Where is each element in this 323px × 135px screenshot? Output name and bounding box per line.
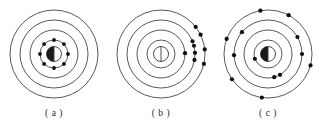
electron-dot [194, 25, 198, 29]
atom-svg-b [107, 0, 215, 108]
electron-dot [193, 51, 197, 55]
electron-dot [300, 52, 304, 56]
atom-svg-c [214, 0, 322, 108]
atom-svg-a [0, 0, 108, 108]
figure-canvas: ( a ) ( b ) ( c ) [0, 0, 323, 135]
electron-dot [295, 35, 299, 39]
electron-dot [230, 77, 234, 81]
atom-diagram-c [214, 0, 322, 108]
panel-b-caption: ( b ) [107, 106, 215, 120]
electron-dot [253, 57, 257, 61]
electron-dot [287, 13, 291, 17]
electron-dot [42, 42, 46, 46]
electron-dot [308, 63, 312, 67]
electron-dot [198, 33, 202, 37]
panel-a-caption: ( a ) [0, 106, 108, 120]
electron-dot [66, 52, 70, 56]
electron-dot [192, 44, 196, 48]
electron-dot [225, 37, 229, 41]
panel-b: ( b ) [107, 0, 215, 135]
electron-dot [62, 42, 66, 46]
electron-dot [183, 51, 187, 55]
nucleus-shaded-half [261, 47, 269, 62]
electron-dot [190, 39, 194, 43]
electron-dot [278, 73, 282, 77]
electron-dot [260, 95, 264, 99]
panel-a: ( a ) [0, 0, 108, 135]
nucleus-shaded-half [47, 47, 54, 62]
electron-dot [192, 58, 196, 62]
electron-dot [232, 53, 236, 57]
electron-dot [52, 66, 56, 70]
panel-c: ( c ) [214, 0, 322, 135]
electron-dot [203, 47, 207, 51]
electron-dot [202, 62, 206, 66]
panel-c-caption: ( c ) [214, 106, 322, 120]
atom-diagram-b [107, 0, 215, 108]
electron-dot [52, 38, 56, 42]
electron-dot [62, 62, 66, 66]
atom-diagram-a [0, 0, 108, 108]
electron-dot [240, 30, 244, 34]
electron-dot [38, 52, 42, 56]
electron-dot [258, 9, 262, 13]
electron-dot [272, 75, 276, 79]
electron-dot [42, 62, 46, 66]
